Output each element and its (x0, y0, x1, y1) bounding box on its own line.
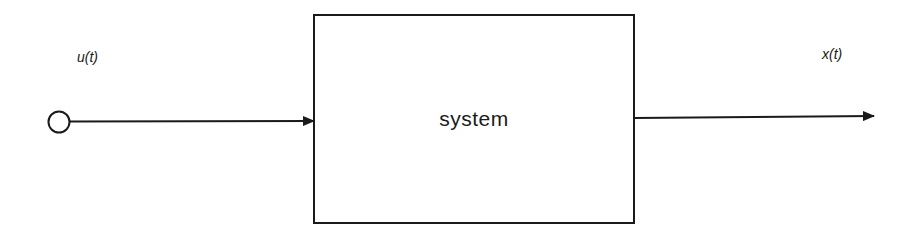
input-arrow (70, 121, 314, 122)
input-node-circle (49, 112, 70, 133)
input-signal-label: u(t) (77, 50, 98, 64)
output-arrow (634, 116, 874, 118)
system-block-label: system (314, 15, 634, 223)
output-signal-label: x(t) (822, 47, 842, 61)
